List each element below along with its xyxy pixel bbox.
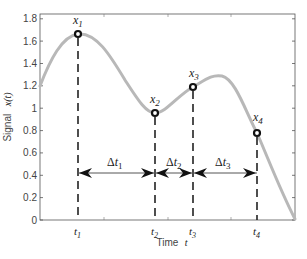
label-x4: x4 [252,110,263,126]
label-dt2: Δt2 [166,155,182,171]
ytick-0.2: 0.2 [23,192,37,203]
ytick-1.8: 1.8 [23,13,37,24]
ytick-0: 0 [31,215,37,226]
marker-x2 [152,110,158,116]
ytick-1: 1 [31,103,37,114]
signal-chart: 0 0.2 0.4 0.6 0.8 1 1.2 1.4 1.6 1.8 Sign… [0,0,307,259]
y-axis-label: Signal x(t) [0,92,14,142]
label-dt3: Δt3 [215,155,231,171]
label-dt1: Δt1 [107,155,123,171]
y-tick-labels: 0 0.2 0.4 0.6 0.8 1 1.2 1.4 1.6 1.8 [23,13,37,225]
label-x3: x3 [188,66,199,82]
ytick-0.4: 0.4 [23,170,37,181]
ytick-1.6: 1.6 [23,36,37,47]
marker-x1 [75,31,81,37]
ytick-0.6: 0.6 [23,147,37,158]
x-axis-label: Time t [156,232,187,249]
label-x2: x2 [149,92,160,108]
marker-x4 [254,130,260,136]
xtick-t3: t3 [189,225,196,240]
xtick-t4: t4 [253,225,260,240]
label-x1: x1 [72,13,83,29]
svg-text:Signal x(t): Signal x(t) [0,92,14,142]
marker-x3 [190,84,196,90]
ytick-1.4: 1.4 [23,58,37,69]
xtick-t1: t1 [74,225,81,240]
x-minor-ticks [104,14,231,220]
ytick-0.8: 0.8 [23,125,37,136]
sample-dashed-lines [78,38,257,220]
ytick-1.2: 1.2 [23,80,37,91]
